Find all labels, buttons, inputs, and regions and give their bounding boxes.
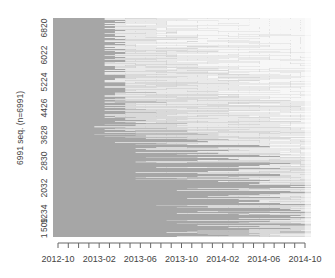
x-tick-label: 2013-06 [124,254,157,264]
x-tick-label: 2014-10 [288,254,321,264]
y-tick-label: 3628 [39,125,49,144]
y-tick-label: 1234 [39,204,49,223]
x-tick-label: 2013-02 [83,254,116,264]
sequence-index-plot: 150912342032283036284426522460226820 201… [0,0,335,278]
x-tick-label: 2012-10 [41,254,74,264]
x-axis: 2012-102013-022013-062013-102014-022014-… [41,243,321,264]
y-tick-label: 4426 [39,98,49,117]
y-axis: 150912342032283036284426522460226820 [39,18,49,238]
y-tick-label: 1 [39,233,49,238]
y-tick-label: 6820 [39,18,49,37]
x-tick-label: 2014-02 [206,254,239,264]
x-tick-label: 2013-10 [165,254,198,264]
y-tick-label: 6022 [39,45,49,64]
y-tick-label: 2830 [39,151,49,170]
y-tick-label: 2032 [39,178,49,197]
y-axis-title: 6991 seq. (n=6991) [15,91,25,165]
plot-area [53,18,311,237]
y-tick-label: 5224 [39,72,49,91]
x-tick-label: 2014-06 [247,254,280,264]
